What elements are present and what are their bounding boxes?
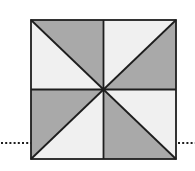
- center-point: [102, 88, 106, 92]
- pinwheel-diagram: [0, 0, 195, 171]
